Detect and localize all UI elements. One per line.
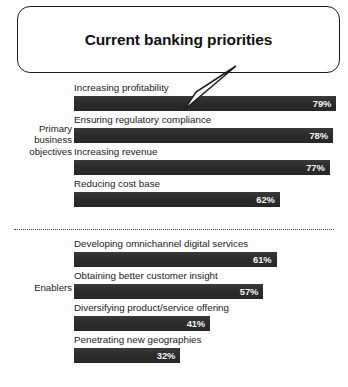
- group-label-enablers: Enablers: [6, 282, 72, 293]
- bar-value-label: 61%: [253, 254, 271, 265]
- banking-priorities-chart: Current banking priorities Primary busin…: [0, 0, 348, 387]
- group-label-line: Enablers: [6, 282, 72, 293]
- bar-row-label: Increasing revenue: [74, 146, 157, 158]
- callout-tail-pointer: [180, 64, 250, 116]
- bar-value-label: 62%: [256, 194, 274, 205]
- group-label-primary: Primary business objectives: [6, 123, 72, 157]
- group-label-line: objectives: [6, 146, 72, 157]
- bar-row: Reducing cost base 62%: [74, 178, 348, 210]
- bar-row: Obtaining better customer insight 57%: [74, 270, 348, 302]
- bar: 41%: [74, 316, 210, 331]
- bar-rows-enablers: Developing omnichannel digital services …: [74, 238, 348, 366]
- bar-value-label: 41%: [187, 318, 205, 329]
- bar-row-label: Developing omnichannel digital services: [74, 238, 248, 250]
- bar-row: Developing omnichannel digital services …: [74, 238, 348, 270]
- bar-row: Penetrating new geographies 32%: [74, 334, 348, 366]
- bar: 32%: [74, 348, 180, 363]
- section-divider: [14, 229, 334, 230]
- group-label-line: business: [6, 134, 72, 145]
- bar-value-label: 57%: [240, 286, 258, 297]
- bar-row-label: Reducing cost base: [74, 178, 160, 190]
- bar-value-label: 79%: [313, 98, 331, 109]
- bar: 61%: [74, 252, 277, 267]
- bar: 78%: [74, 128, 333, 143]
- bar-row-label: Diversifying product/service offering: [74, 302, 229, 314]
- page-title: Current banking priorities: [85, 31, 273, 49]
- bar-value-label: 77%: [306, 162, 324, 173]
- bar: 77%: [74, 160, 330, 175]
- bar-row-label: Penetrating new geographies: [74, 334, 201, 346]
- callout-bubble: Current banking priorities: [17, 6, 340, 73]
- bar-row-label: Obtaining better customer insight: [74, 270, 218, 282]
- bar-value-label: 32%: [157, 350, 175, 361]
- bar-row: Diversifying product/service offering 41…: [74, 302, 348, 334]
- bar: 62%: [74, 192, 280, 207]
- bar: 57%: [74, 284, 263, 299]
- group-label-line: Primary: [6, 123, 72, 134]
- bar-row: Ensuring regulatory compliance 78%: [74, 114, 348, 146]
- bar-value-label: 78%: [309, 130, 327, 141]
- bar-row: Increasing revenue 77%: [74, 146, 348, 178]
- bar-row-label: Increasing profitability: [74, 82, 169, 94]
